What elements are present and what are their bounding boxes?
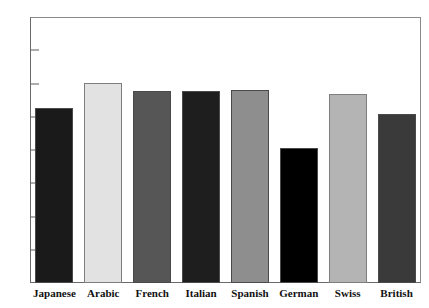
- x-axis-label-swiss: Swiss: [323, 286, 372, 300]
- bar-spanish[interactable]: [231, 90, 269, 283]
- bar-italian[interactable]: [182, 91, 220, 283]
- bars-group: [30, 17, 421, 283]
- x-axis-label-italian: Italian: [177, 286, 226, 300]
- x-axis-label-spanish: Spanish: [226, 286, 275, 300]
- x-axis-label-arabic: Arabic: [79, 286, 128, 300]
- x-axis-label-french: French: [128, 286, 177, 300]
- bar-french[interactable]: [133, 91, 171, 283]
- x-axis-labels: JapaneseArabicFrenchItalianSpanishGerman…: [30, 286, 421, 308]
- x-axis-label-japanese: Japanese: [30, 286, 79, 300]
- bar-german[interactable]: [280, 148, 318, 283]
- x-axis-label-british: British: [372, 286, 421, 300]
- bar-japanese[interactable]: [35, 108, 73, 283]
- bar-chart: 012345678 JapaneseArabicFrenchItalianSpa…: [0, 0, 429, 308]
- x-axis-label-german: German: [274, 286, 323, 300]
- bar-british[interactable]: [378, 114, 416, 283]
- bar-arabic[interactable]: [84, 83, 122, 283]
- bar-swiss[interactable]: [329, 94, 367, 283]
